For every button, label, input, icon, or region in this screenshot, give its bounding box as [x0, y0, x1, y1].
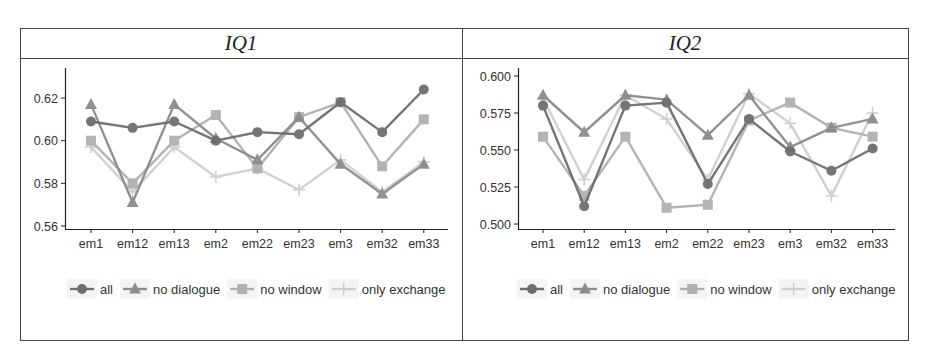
- legend-square-icon: [687, 284, 697, 294]
- legend-item-no-dialogue: no dialogue: [120, 279, 220, 299]
- data-point-square-icon: [868, 132, 878, 142]
- data-point-circle-icon: [826, 166, 836, 176]
- panel-title-iq2: IQ2: [668, 31, 702, 55]
- data-point-square-icon: [86, 136, 96, 146]
- legend-label: no dialogue: [153, 282, 220, 297]
- data-point-circle-icon: [868, 144, 878, 154]
- x-tick-label: em32: [367, 237, 398, 251]
- x-tick-label: em12: [569, 237, 600, 251]
- x-tick-label: em3: [778, 237, 802, 251]
- data-point-triangle-icon: [168, 98, 180, 109]
- data-point-square-icon: [538, 132, 548, 142]
- legend-label: no window: [260, 282, 322, 297]
- figure: IQ1 IQ2 0.560.580.600.62em1em12em13em2em…: [0, 0, 926, 361]
- legend-item-all: all: [67, 279, 113, 299]
- data-point-plus-icon: [578, 174, 590, 186]
- series-line: [543, 103, 873, 207]
- y-tick-label: 0.62: [34, 92, 58, 106]
- x-tick-label: em33: [408, 237, 439, 251]
- data-point-circle-icon: [86, 116, 96, 126]
- data-point-triangle-icon: [537, 89, 549, 100]
- legend-item-no-window: no window: [227, 279, 322, 299]
- series-no-dialogue: [85, 98, 430, 207]
- x-tick-label: em13: [610, 237, 641, 251]
- x-tick-label: em23: [733, 237, 764, 251]
- series-line: [543, 103, 873, 208]
- legend-item-only-exchange: only exchange: [329, 279, 446, 299]
- data-point-triangle-icon: [127, 196, 139, 207]
- x-tick-label: em22: [692, 237, 723, 251]
- y-tick-label: 0.58: [34, 177, 58, 191]
- data-point-circle-icon: [538, 101, 548, 111]
- x-tick-label: em1: [79, 237, 103, 251]
- plot-iq1: 0.560.580.600.62em1em12em13em2em22em23em…: [34, 68, 448, 251]
- data-point-square-icon: [662, 203, 672, 213]
- data-point-square-icon: [785, 98, 795, 108]
- y-tick-label: 0.600: [480, 70, 511, 84]
- x-tick-label: em12: [117, 237, 148, 251]
- x-tick-label: em2: [204, 237, 228, 251]
- data-point-circle-icon: [662, 98, 672, 108]
- y-tick-label: 0.56: [34, 220, 58, 234]
- x-tick-label: em32: [816, 237, 847, 251]
- x-tick-label: em33: [857, 237, 888, 251]
- data-point-triangle-icon: [85, 98, 97, 109]
- legend-iq1: allno dialogueno windowonly exchange: [67, 279, 446, 299]
- legend-label: only exchange: [362, 282, 446, 297]
- data-point-square-icon: [377, 161, 387, 171]
- data-point-circle-icon: [169, 116, 179, 126]
- series-no-dialogue: [537, 89, 879, 152]
- data-point-plus-icon: [825, 190, 837, 202]
- data-point-circle-icon: [377, 127, 387, 137]
- data-point-circle-icon: [294, 129, 304, 139]
- data-point-square-icon: [703, 200, 713, 210]
- legend-item-all: all: [517, 279, 563, 299]
- series-all: [86, 84, 429, 145]
- data-point-circle-icon: [252, 127, 262, 137]
- data-point-circle-icon: [336, 97, 346, 107]
- x-tick-label: em3: [328, 237, 352, 251]
- legend-label: only exchange: [812, 282, 896, 297]
- data-point-circle-icon: [703, 179, 713, 189]
- data-point-circle-icon: [785, 146, 795, 156]
- data-point-circle-icon: [419, 84, 429, 94]
- x-tick-label: em2: [654, 237, 678, 251]
- data-point-triangle-icon: [867, 112, 879, 123]
- data-point-circle-icon: [211, 136, 221, 146]
- data-point-square-icon: [128, 178, 138, 188]
- x-tick-label: em13: [159, 237, 190, 251]
- data-point-triangle-icon: [418, 158, 430, 169]
- legend-item-no-dialogue: no dialogue: [570, 279, 670, 299]
- y-tick-label: 0.575: [480, 107, 511, 121]
- data-point-circle-icon: [744, 114, 754, 124]
- legend-label: all: [550, 282, 563, 297]
- legend-item-only-exchange: only exchange: [779, 279, 896, 299]
- legend-label: no dialogue: [603, 282, 670, 297]
- x-tick-label: em1: [531, 237, 555, 251]
- panel-title-iq1: IQ1: [224, 31, 258, 55]
- y-tick-label: 0.500: [480, 218, 511, 232]
- legend-item-no-window: no window: [677, 279, 772, 299]
- series-all: [538, 98, 878, 212]
- legend-label: all: [100, 282, 113, 297]
- data-point-circle-icon: [620, 101, 630, 111]
- legend-square-icon: [237, 284, 247, 294]
- chart-canvas: IQ1 IQ2 0.560.580.600.62em1em12em13em2em…: [0, 0, 926, 361]
- data-point-triangle-icon: [619, 89, 631, 100]
- y-tick-label: 0.525: [480, 181, 511, 195]
- legend-circle-icon: [77, 284, 87, 294]
- data-point-circle-icon: [579, 201, 589, 211]
- data-point-square-icon: [419, 114, 429, 124]
- y-tick-label: 0.550: [480, 144, 511, 158]
- x-tick-label: em22: [242, 237, 273, 251]
- y-tick-label: 0.60: [34, 134, 58, 148]
- legend-circle-icon: [527, 284, 537, 294]
- plot-iq2: 0.5000.5250.5500.5750.600em1em12em13em2e…: [480, 68, 895, 251]
- series-no-window: [86, 97, 429, 188]
- legend-iq2: allno dialogueno windowonly exchange: [517, 279, 896, 299]
- data-point-square-icon: [211, 110, 221, 120]
- legend-label: no window: [710, 282, 772, 297]
- data-point-circle-icon: [128, 123, 138, 133]
- data-point-square-icon: [252, 163, 262, 173]
- x-tick-label: em23: [283, 237, 314, 251]
